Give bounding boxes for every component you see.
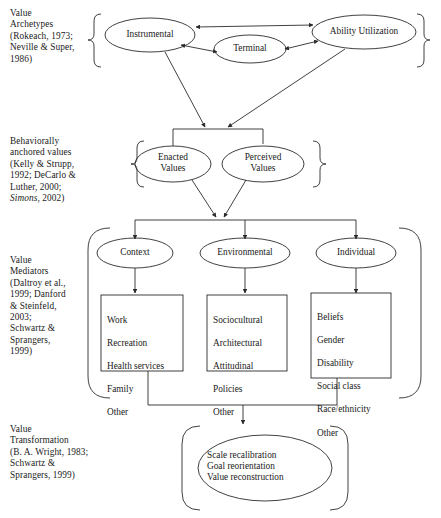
box-list-environmental: Sociocultural Architectural Attitudinal … (213, 303, 287, 431)
box-list-individual: Beliefs Gender Disability Social class R… (317, 300, 393, 451)
list-item: Attitudinal (213, 361, 287, 373)
list-item: Race/ethnicity (317, 404, 393, 416)
list-item: Family (107, 384, 183, 396)
tier-label-value-transformation: Value Transformation (B. A. Wright, 1983… (10, 424, 120, 481)
tier-label-behavioral-italic: Simons (10, 193, 37, 203)
node-enacted-values (135, 146, 211, 182)
list-item: Social class (317, 381, 393, 393)
node-context (97, 238, 173, 268)
list-item: Health services (107, 361, 183, 373)
list-item: Recreation (107, 338, 183, 350)
node-perceived-values (222, 146, 304, 182)
bracket-tier-transformation (182, 426, 200, 510)
list-item: Policies (213, 384, 287, 396)
bracket-tier-behavioral (131, 141, 144, 187)
edge-instrumental-ability (196, 25, 313, 27)
tier-label-behavioral-plain: Behaviorally anchored values (Kelly & St… (10, 136, 76, 192)
tier-label-behaviorally-anchored-values: Behaviorally anchored values (Kelly & St… (10, 136, 110, 204)
list-item: Sociocultural (213, 315, 287, 327)
node-environmental (200, 238, 290, 268)
list-item: Architectural (213, 338, 287, 350)
bracket-tier-behavioral-right (313, 141, 326, 187)
list-item: Beliefs (317, 312, 393, 324)
edge-perceived-to-bus2 (224, 180, 246, 217)
edge-enacted-to-bus2 (192, 180, 216, 217)
list-item: Other (317, 428, 393, 440)
bracket-tier-archetypes-right (417, 14, 430, 67)
box-list-context: Work Recreation Health services Family O… (107, 303, 183, 431)
tier-label-behavioral-tail: , 2002) (37, 193, 64, 203)
node-instrumental (105, 18, 195, 52)
edge-instrumental-terminal (181, 45, 217, 52)
node-ability-utilization (312, 15, 416, 49)
bracket-tier-mediators-right (399, 228, 421, 398)
tier-label-value-archetypes: Value Archetypes (Rokeach, 1973; Neville… (10, 8, 100, 65)
list-item: Other (213, 407, 287, 419)
list-item: Other (107, 407, 183, 419)
node-individual (316, 238, 396, 268)
tier-label-value-mediators: Value Mediators (Daltroy et al., 1999; D… (10, 255, 92, 358)
diagram-canvas: Value Archetypes (Rokeach, 1973; Neville… (0, 0, 441, 518)
edge-ability-to-bus1 (228, 49, 345, 127)
list-item: Disability (317, 358, 393, 370)
edge-terminal-ability (285, 41, 318, 49)
edge-instrumental-to-bus1 (165, 52, 205, 127)
list-item: Work (107, 315, 183, 327)
node-transformation (198, 435, 332, 501)
node-terminal (214, 35, 286, 63)
list-item: Gender (317, 335, 393, 347)
